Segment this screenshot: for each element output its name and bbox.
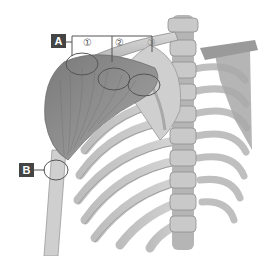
label-b: B (19, 163, 34, 177)
humerus (44, 150, 66, 256)
anatomy-illustration (0, 0, 265, 256)
anatomy-figure: A B ① ② ③ (0, 0, 265, 256)
number-3: ③ (147, 38, 156, 48)
number-2: ② (115, 38, 124, 48)
label-a: A (51, 34, 66, 48)
spine (168, 15, 198, 250)
number-1: ① (83, 38, 92, 48)
